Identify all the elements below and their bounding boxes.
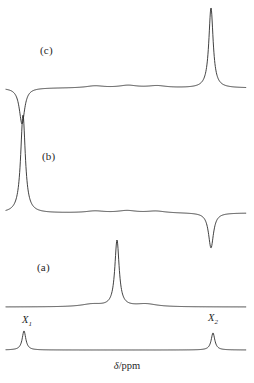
trace-label-c: (c) (40, 44, 53, 56)
trace-label-a: (a) (37, 261, 50, 273)
peak-label-x2: X2 (208, 312, 218, 326)
peak-label-x1: X1 (22, 314, 32, 328)
trace-label-b: (b) (42, 150, 55, 162)
trace-reference (6, 331, 246, 350)
peak-label-x1-sub: 1 (28, 320, 32, 328)
nmr-spectra-figure: (c) (b) (a) X1 X2 δ/ppm (0, 0, 254, 383)
peak-label-x2-sub: 2 (214, 318, 218, 326)
x-axis-label-units: /ppm (119, 360, 141, 371)
trace-b (6, 115, 246, 248)
trace-a (6, 240, 246, 307)
trace-c (6, 8, 246, 124)
trace-group (6, 8, 246, 350)
x-axis-label: δ/ppm (92, 360, 162, 371)
